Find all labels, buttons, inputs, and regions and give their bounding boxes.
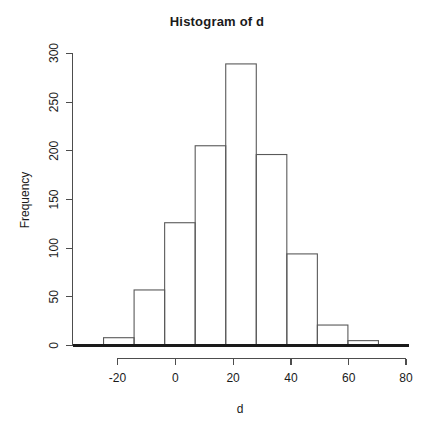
y-tick-label-100: 100: [47, 238, 61, 258]
plot-area: 300 250 200 150 100 50 0 Frequency: [0, 0, 434, 433]
x-tick-label-0: 0: [172, 371, 179, 385]
x-axis-title: d: [237, 402, 244, 416]
x-tick-label-80: 80: [399, 371, 413, 385]
y-tick-label-200: 200: [47, 140, 61, 160]
histogram-bars: [104, 64, 379, 346]
y-tick-label-250: 250: [47, 92, 61, 112]
y-axis: 300 250 200 150 100 50 0: [47, 43, 73, 349]
x-tick-label-neg20: -20: [109, 371, 127, 385]
x-axis: -20 0 20 40 60 80: [109, 359, 413, 386]
bar-bin-7: [287, 254, 318, 346]
x-tick-label-60: 60: [342, 371, 356, 385]
bar-bin-3: [165, 223, 196, 346]
y-tick-label-150: 150: [47, 189, 61, 209]
x-tick-label-40: 40: [284, 371, 298, 385]
bar-bin-4: [195, 146, 226, 346]
y-axis-title: Frequency: [18, 172, 32, 229]
y-tick-label-50: 50: [47, 290, 61, 304]
y-tick-label-300: 300: [47, 43, 61, 63]
bar-bin-5: [226, 64, 257, 346]
bar-bin-6: [256, 155, 287, 346]
histogram-figure: Histogram of d 300 250 200 150 100 50 0 …: [0, 0, 434, 433]
bar-bin-1: [104, 338, 135, 346]
bar-bin-8: [317, 325, 348, 345]
x-tick-label-20: 20: [226, 371, 240, 385]
y-tick-label-0: 0: [47, 342, 61, 349]
bar-bin-2: [134, 290, 165, 346]
